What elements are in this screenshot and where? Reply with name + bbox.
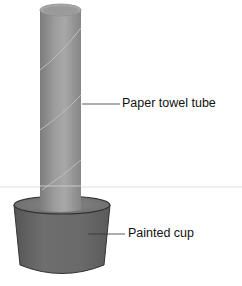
cup-label: Painted cup bbox=[128, 226, 194, 240]
paper-towel-tube bbox=[40, 4, 81, 212]
tube-label: Paper towel tube bbox=[122, 96, 216, 110]
diagram bbox=[0, 0, 242, 286]
surface-line bbox=[0, 186, 242, 188]
